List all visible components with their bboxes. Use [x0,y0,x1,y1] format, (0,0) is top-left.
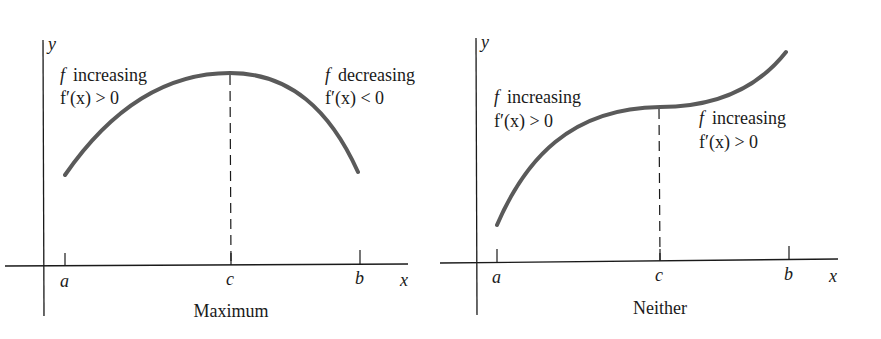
tick-label-c: c [655,265,663,285]
panel-maximum: y x a c b fincreasing f′(x) > 0 fdecreas… [5,34,415,321]
annotation-left-increasing: fincreasing [60,65,147,85]
tick-label-a: a [492,267,501,287]
annotation-right-increasing: fincreasing [699,108,786,128]
caption-neither: Neither [633,298,687,318]
tick-label-c: c [226,269,234,289]
y-axis-label: y [479,32,489,52]
annotation-left-increasing: fincreasing [494,87,581,107]
dashed-line-c [230,75,231,264]
y-axis-label: y [46,34,56,54]
panel-neither: y x a c b fincreasing f′(x) > 0 fincreas… [440,32,838,318]
x-axis [440,259,838,263]
caption-maximum: Maximum [194,301,269,321]
x-axis-label: x [828,266,837,286]
tick-label-a: a [60,271,69,291]
annotation-right-derivative: f′(x) > 0 [699,132,758,153]
annotation-left-derivative: f′(x) > 0 [494,111,553,132]
y-axis [476,38,477,315]
x-axis-label: x [399,270,408,290]
tick-label-b: b [355,268,364,288]
annotation-right-derivative: f′(x) < 0 [325,88,384,109]
figure: y x a c b fincreasing f′(x) > 0 fdecreas… [0,0,881,339]
annotation-right-decreasing: fdecreasing [325,65,415,85]
tick-label-b: b [784,264,793,284]
dashed-line-c [659,109,660,260]
y-axis [43,40,44,316]
annotation-left-derivative: f′(x) > 0 [60,88,119,109]
